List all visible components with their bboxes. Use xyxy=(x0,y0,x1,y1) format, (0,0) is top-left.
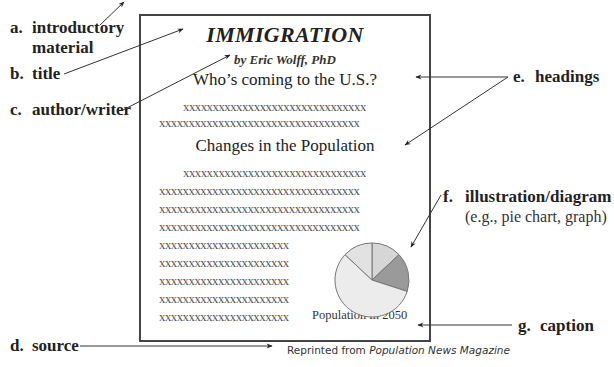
arrow-heading-2 xyxy=(405,77,508,145)
diagram-overlay xyxy=(0,0,614,367)
arrow-illustration xyxy=(411,195,441,247)
arrow-introductory-material xyxy=(100,2,124,25)
arrow-author xyxy=(123,55,230,110)
pie-chart xyxy=(335,243,409,317)
arrow-title xyxy=(64,29,183,74)
